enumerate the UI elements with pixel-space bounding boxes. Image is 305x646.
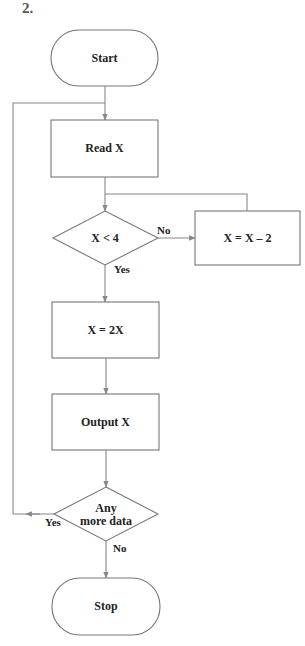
subtract-node: X = X – 2 [195, 211, 300, 265]
output-node: Output X [52, 394, 159, 450]
output-label: Output X [81, 415, 130, 429]
decision1-no-label: No [157, 224, 171, 236]
decision1-label: X < 4 [91, 231, 119, 245]
decision1-yes-label: Yes [114, 263, 131, 275]
stop-node: Stop [52, 578, 160, 635]
decision1-node: X < 4 [53, 211, 158, 265]
edge-subtract-return [105, 194, 247, 211]
decision2-label-line1: Any [95, 501, 116, 515]
decision2-no-label: No [113, 542, 127, 554]
decision2-label-line2: more data [80, 514, 132, 528]
double-node: X = 2X [52, 302, 159, 358]
start-node: Start [51, 30, 158, 86]
double-label: X = 2X [87, 323, 124, 337]
start-label: Start [92, 51, 118, 65]
flowchart: Start Read X X < 4 No X = X – 2 Yes X = … [0, 0, 305, 646]
read-label: Read X [85, 141, 124, 155]
read-node: Read X [51, 120, 158, 177]
subtract-label: X = X – 2 [223, 231, 271, 245]
stop-label: Stop [94, 599, 118, 613]
decision2-node: Any more data [54, 487, 158, 541]
decision2-yes-label: Yes [45, 516, 62, 528]
